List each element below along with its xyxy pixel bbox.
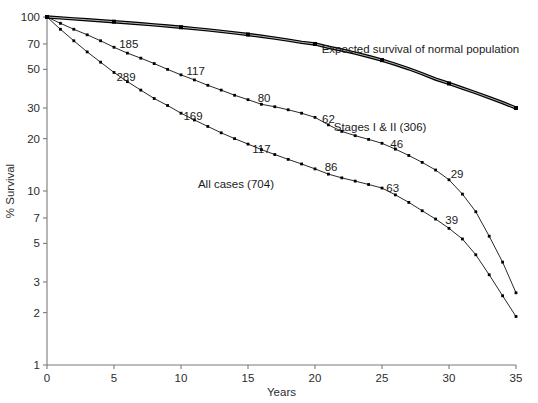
data-point (273, 153, 276, 156)
at-risk-count-label: 117 (187, 65, 205, 77)
data-point (461, 193, 464, 196)
data-point (193, 79, 196, 82)
data-point (501, 261, 504, 264)
at-risk-count-label: 80 (258, 92, 271, 104)
data-point (447, 81, 451, 85)
data-point (354, 134, 357, 137)
axes-group (43, 17, 516, 369)
y-tick-label: 2 (34, 307, 40, 319)
curves-group (47, 17, 516, 317)
data-point (112, 20, 116, 24)
data-point (367, 138, 370, 141)
curve-all-cases (47, 17, 516, 317)
x-tick-label: 0 (44, 372, 50, 384)
data-point (394, 193, 397, 196)
x-tick-label: 30 (443, 372, 456, 384)
data-point (354, 180, 357, 183)
data-point (72, 28, 75, 31)
data-point (367, 183, 370, 186)
data-point (461, 238, 464, 241)
y-tick-label: 30 (27, 102, 40, 114)
data-point (474, 210, 477, 213)
curve-expected-survival-highlight (47, 17, 516, 108)
x-tick-label: 15 (242, 372, 255, 384)
tick-labels-group: 10070503020107532105101520253035 (21, 11, 523, 384)
data-point (72, 39, 75, 42)
data-point (488, 235, 491, 238)
at-risk-count-label: 46 (390, 138, 403, 150)
data-point (126, 52, 129, 55)
y-tick-label: 70 (27, 38, 40, 50)
data-point (300, 112, 303, 115)
data-point (179, 25, 183, 29)
data-point (314, 167, 317, 170)
data-point (153, 62, 156, 65)
data-point (407, 201, 410, 204)
data-point (86, 33, 89, 36)
data-point (99, 39, 102, 42)
at-risk-count-label: 86 (325, 161, 338, 173)
data-point (434, 218, 437, 221)
data-point (180, 112, 183, 115)
data-point (233, 94, 236, 97)
x-tick-label: 25 (376, 372, 389, 384)
data-point (381, 187, 384, 190)
at-risk-count-label: 29 (451, 168, 464, 180)
data-point (247, 98, 250, 101)
data-point (287, 158, 290, 161)
x-tick-label: 10 (175, 372, 188, 384)
y-tick-label: 20 (27, 133, 40, 145)
at-risk-count-label: 62 (322, 113, 335, 125)
y-tick-label: 100 (21, 11, 40, 23)
series-label: Expected survival of normal population (322, 43, 520, 55)
data-point (340, 176, 343, 179)
data-point (434, 169, 437, 172)
y-tick-label: 50 (27, 63, 40, 75)
data-point (501, 294, 504, 297)
data-point (300, 163, 303, 166)
at-risk-count-label: 169 (183, 110, 202, 122)
x-tick-label: 35 (510, 372, 523, 384)
data-point (220, 131, 223, 134)
series-label: All cases (704) (198, 178, 274, 190)
data-point (166, 68, 169, 71)
data-point (381, 142, 384, 145)
data-point (514, 106, 518, 110)
data-point (139, 57, 142, 60)
data-point (314, 116, 317, 119)
data-point (313, 42, 317, 46)
curve-expected-survival (47, 17, 516, 108)
data-point (380, 58, 384, 62)
survival-chart: 10070503020107532105101520253035 Expecte… (0, 0, 538, 403)
data-point (139, 89, 142, 92)
axis-titles-group: Years% Survival (4, 164, 296, 398)
x-axis-title: Years (267, 386, 296, 398)
data-point (407, 154, 410, 157)
data-point (515, 315, 518, 318)
y-axis-title: % Survival (4, 164, 16, 218)
data-point (206, 125, 209, 128)
data-point (287, 108, 290, 111)
data-point (474, 253, 477, 256)
data-point (246, 33, 250, 37)
data-point (488, 273, 491, 276)
annotations-group: Expected survival of normal populationSt… (116, 38, 519, 226)
data-point (233, 137, 236, 140)
data-point (59, 22, 62, 25)
data-point (421, 209, 424, 212)
at-risk-count-label: 39 (445, 214, 458, 226)
y-tick-label: 7 (34, 212, 40, 224)
y-tick-label: 1 (34, 359, 40, 371)
at-risk-count-label: 117 (252, 143, 270, 155)
chart-canvas: 10070503020107532105101520253035 Expecte… (0, 0, 538, 403)
x-tick-label: 5 (111, 372, 117, 384)
data-points-group (45, 15, 518, 318)
data-point (113, 46, 116, 49)
at-risk-count-label: 289 (116, 71, 135, 83)
data-point (448, 227, 451, 230)
data-point (421, 161, 424, 164)
data-point (206, 84, 209, 87)
data-point (45, 15, 49, 19)
y-tick-label: 3 (34, 276, 40, 288)
x-tick-label: 20 (309, 372, 322, 384)
